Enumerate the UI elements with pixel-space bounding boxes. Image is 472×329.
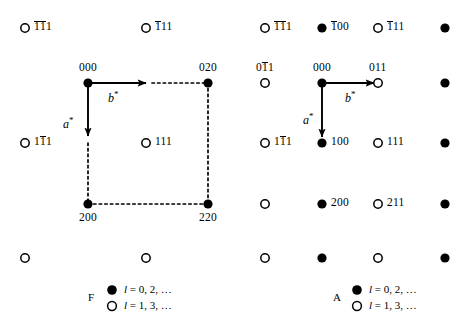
- miller-index-right-4: 011: [256, 62, 274, 74]
- legend-filled-text-a: l = 0, 2, …: [369, 284, 417, 295]
- lattice-node-right-12: [261, 200, 269, 208]
- legend-filled-text-f: l = 0, 2, …: [124, 284, 172, 295]
- miller-index-left-1: 111: [155, 21, 172, 33]
- legend-filled-marker-f: [107, 285, 117, 295]
- lattice-node-right-18: [374, 254, 382, 262]
- lattice-node-right-16: [261, 254, 269, 262]
- lattice-node-right-10: [374, 139, 382, 147]
- lattice-node-right-3: [440, 23, 449, 32]
- lattice-node-left-6: [83, 199, 92, 208]
- lattice-node-right-19: [440, 253, 449, 262]
- legend-open-text-f: l = 1, 3, …: [124, 300, 172, 311]
- lattice-node-right-1: [317, 23, 326, 32]
- lattice-node-right-5: [317, 78, 326, 87]
- lattice-node-right-4: [261, 79, 269, 87]
- a-star-label-left: a*: [63, 116, 74, 130]
- miller-index-left-7: 220: [199, 212, 217, 224]
- miller-index-left-0: 111: [34, 21, 52, 33]
- legend-filled-marker-a: [352, 285, 362, 295]
- miller-index-right-1: 100: [331, 21, 349, 33]
- legend-open-marker-f: [108, 302, 117, 311]
- miller-index-left-2: 000: [79, 62, 97, 74]
- lattice-node-right-9: [317, 138, 326, 147]
- lattice-node-right-14: [374, 200, 382, 208]
- b-star-label-right: b*: [345, 90, 356, 104]
- miller-index-left-4: 111: [34, 136, 52, 148]
- miller-index-right-8: 111: [274, 136, 292, 148]
- miller-index-right-13: 200: [331, 197, 349, 209]
- lattice-node-left-7: [203, 199, 212, 208]
- miller-index-right-6: 011: [369, 62, 386, 74]
- miller-index-right-2: 111: [387, 21, 404, 33]
- lattice-node-left-1: [142, 24, 150, 32]
- lattice-node-right-7: [440, 78, 449, 87]
- lattice-node-right-2: [374, 24, 382, 32]
- lattice-node-left-0: [21, 24, 29, 32]
- b-star-label-left: b*: [108, 90, 119, 104]
- lattice-node-right-6: [374, 79, 382, 87]
- miller-index-left-3: 020: [199, 62, 217, 74]
- panel-label-a: A: [333, 292, 341, 303]
- diagram-canvas: 1111110000201111112002201111001110110000…: [0, 0, 472, 329]
- lattice-node-right-15: [440, 199, 449, 208]
- a-star-label-right: a*: [303, 112, 314, 126]
- lattice-vector-graphics: [0, 0, 472, 329]
- lattice-node-right-8: [261, 139, 269, 147]
- miller-index-left-6: 200: [79, 212, 97, 224]
- miller-index-right-9: 100: [331, 136, 349, 148]
- lattice-node-left-8: [21, 254, 29, 262]
- miller-index-right-14: 211: [387, 197, 404, 209]
- legend-open-marker-a: [353, 302, 362, 311]
- legend-open-text-a: l = 1, 3, …: [369, 300, 417, 311]
- panel-label-f: F: [88, 292, 94, 303]
- miller-index-left-5: 111: [155, 136, 172, 148]
- lattice-node-right-13: [317, 199, 326, 208]
- lattice-node-right-17: [317, 253, 326, 262]
- miller-index-right-10: 111: [387, 136, 404, 148]
- lattice-node-left-5: [142, 139, 150, 147]
- miller-index-right-0: 111: [274, 21, 292, 33]
- lattice-node-left-9: [142, 254, 150, 262]
- lattice-node-right-11: [440, 138, 449, 147]
- lattice-node-left-2: [83, 78, 92, 87]
- miller-index-right-5: 000: [313, 62, 331, 74]
- lattice-node-left-4: [21, 139, 29, 147]
- lattice-node-right-0: [261, 24, 269, 32]
- lattice-node-left-3: [203, 78, 212, 87]
